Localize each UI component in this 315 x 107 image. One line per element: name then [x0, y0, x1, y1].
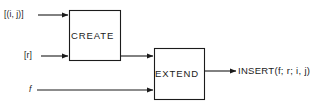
input-label-ij: [(i, j)]: [4, 10, 24, 19]
input-label-f: f: [29, 85, 31, 94]
output-label-insert: INSERT(f; r; i, j): [238, 66, 310, 76]
diagram-canvas: [0, 0, 315, 107]
flow-diagram: [(i, j)] [r] f CREATE EXTEND INSERT(f; r…: [0, 0, 315, 107]
input-label-r: [r]: [24, 51, 32, 60]
create-block-label: CREATE: [71, 31, 114, 41]
extend-block-label: EXTEND: [155, 69, 199, 79]
